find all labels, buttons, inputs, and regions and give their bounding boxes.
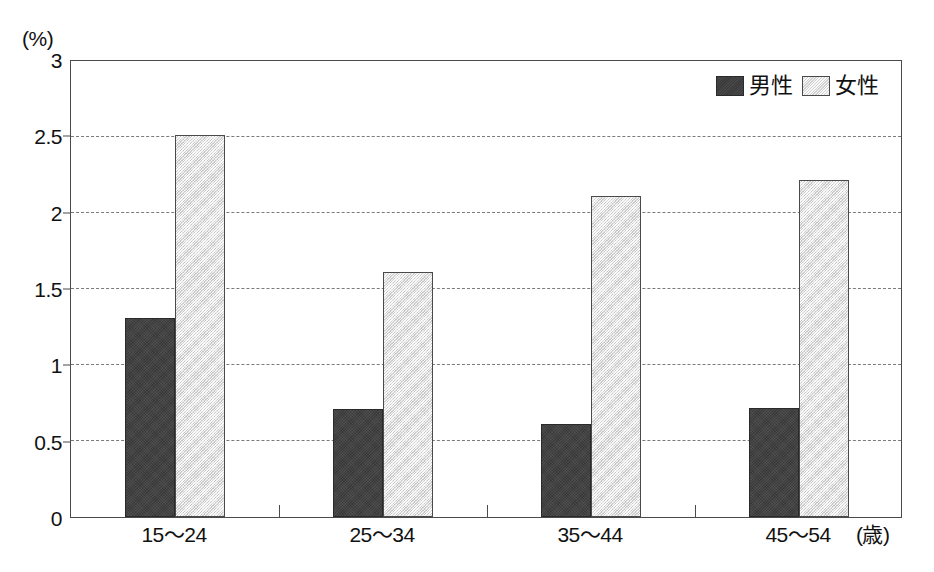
- y-axis-tick-label: 2: [6, 202, 62, 223]
- x-axis-separators: [71, 61, 901, 517]
- legend: 男性 女性: [716, 75, 879, 97]
- plot-area: 男性 女性: [70, 60, 902, 518]
- y-axis-tick-label: 2.5: [6, 126, 62, 147]
- legend-label-female: 女性: [835, 75, 879, 97]
- x-axis-category-label: 25～34: [349, 524, 414, 545]
- x-axis-separator-tick: [279, 505, 280, 518]
- legend-entry-male[interactable]: 男性: [716, 75, 793, 97]
- legend-label-male: 男性: [749, 75, 793, 97]
- y-axis-tick-label: 1: [6, 355, 62, 376]
- x-axis-category-label: 35～44: [557, 524, 622, 545]
- x-axis-separator-tick: [487, 505, 488, 518]
- y-axis-tick-label: 3: [6, 50, 62, 71]
- y-axis-tick-label: 0.5: [6, 431, 62, 452]
- y-axis-unit-label: (%): [22, 28, 53, 49]
- bar-chart: (%) 男性 女性 00.511.522.53 (歳) 15～2425～3435…: [0, 0, 934, 572]
- female-swatch-icon: [802, 76, 830, 96]
- x-axis-separator-tick: [695, 505, 696, 518]
- male-swatch-icon: [716, 76, 744, 96]
- legend-entry-female[interactable]: 女性: [802, 75, 879, 97]
- y-axis-tick-label: 1.5: [6, 279, 62, 300]
- x-axis-category-label: 45～54: [765, 524, 830, 545]
- x-axis-unit-label: (歳): [856, 524, 890, 545]
- x-axis-category-label: 15～24: [141, 524, 206, 545]
- y-axis-tick-label: 0: [6, 508, 62, 529]
